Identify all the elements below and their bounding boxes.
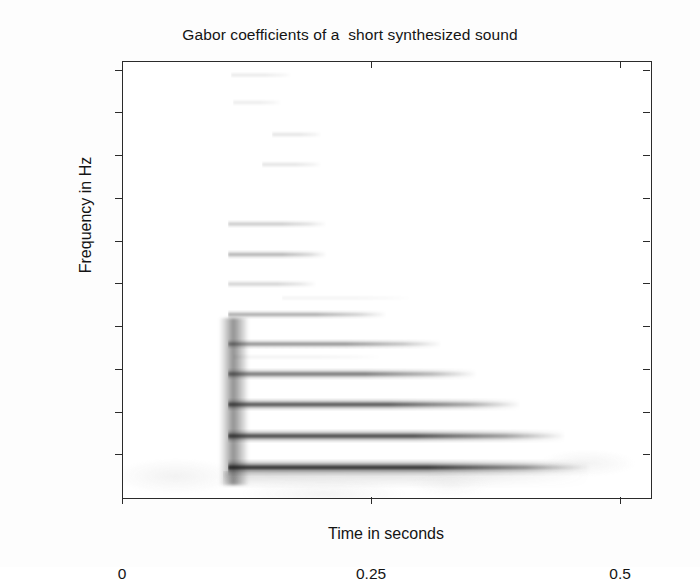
- y-tick-mark: [115, 198, 122, 199]
- spectrogram-image: [123, 62, 651, 498]
- harmonic-band: [228, 429, 567, 444]
- x-tick-mark: [620, 497, 621, 504]
- y-tick-mark-right: [643, 112, 650, 113]
- y-tick-mark: [115, 412, 122, 413]
- low-frequency-noise-floor: [223, 471, 592, 488]
- x-tick-mark: [122, 497, 123, 504]
- x-axis-label: Time in seconds: [122, 525, 650, 543]
- y-tick-mark: [115, 70, 122, 71]
- y-tick-mark-right: [643, 70, 650, 71]
- y-tick-mark-right: [643, 283, 650, 284]
- harmonic-band: [262, 161, 322, 167]
- harmonic-band: [228, 368, 477, 379]
- chart-title: Gabor coefficients of a short synthesize…: [0, 26, 700, 44]
- y-tick-mark: [115, 283, 122, 284]
- harmonic-band: [228, 220, 328, 228]
- harmonic-band: [228, 459, 592, 476]
- x-tick-mark-top: [620, 61, 621, 68]
- y-tick-mark-right: [643, 155, 650, 156]
- plot-area: [122, 61, 652, 499]
- harmonic-band: [228, 280, 318, 288]
- x-tick-label: 0.5: [609, 565, 631, 583]
- harmonic-band: [233, 354, 382, 361]
- x-tick-label: 0: [118, 565, 127, 583]
- y-tick-mark-right: [643, 412, 650, 413]
- harmonic-band: [228, 339, 442, 349]
- y-tick-mark: [115, 454, 122, 455]
- y-tick-mark-right: [643, 454, 650, 455]
- harmonic-band: [228, 250, 328, 258]
- y-tick-mark-right: [643, 369, 650, 370]
- y-tick-mark: [115, 155, 122, 156]
- harmonic-band: [282, 295, 412, 301]
- y-tick-mark-right: [643, 198, 650, 199]
- x-tick-mark-top: [371, 61, 372, 68]
- harmonic-band: [228, 310, 387, 319]
- x-tick-label: 0.25: [356, 565, 386, 583]
- y-tick-mark: [115, 369, 122, 370]
- x-tick-mark-top: [122, 61, 123, 68]
- y-tick-mark-right: [643, 326, 650, 327]
- y-tick-mark: [115, 326, 122, 327]
- harmonic-band: [228, 398, 522, 411]
- x-tick-mark: [371, 497, 372, 504]
- y-tick-mark-right: [643, 241, 650, 242]
- onset-transient: [219, 318, 249, 485]
- y-axis-label: Frequency in Hz: [77, 115, 95, 315]
- harmonic-band: [231, 72, 293, 78]
- y-tick-mark: [115, 112, 122, 113]
- harmonic-band: [233, 99, 283, 105]
- harmonic-band: [272, 131, 322, 137]
- y-tick-mark: [115, 241, 122, 242]
